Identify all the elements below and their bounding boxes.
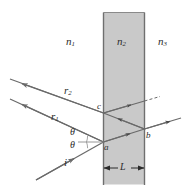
- dashed-extension-at-c: [145, 97, 161, 102]
- angle-theta-lower: θ: [70, 140, 75, 150]
- point-b-label: b: [146, 131, 151, 140]
- optics-ray-diagram: n1 n2 n3 r2 r1 i θ θ a b c L: [0, 0, 182, 185]
- reflected-ray-r2: [10, 79, 104, 113]
- slab-thickness-label: L: [120, 162, 126, 172]
- reflected-ray-2-label: r2: [64, 85, 72, 97]
- angle-arc-lower: [87, 142, 88, 148]
- transmitted-ray-at-b: [145, 118, 182, 129]
- angle-theta-upper: θ: [70, 127, 75, 137]
- point-c-label: c: [97, 102, 101, 111]
- diagram-canvas: [0, 0, 182, 185]
- medium-2-index: n2: [117, 36, 126, 48]
- reflected-ray-1-label: r1: [51, 111, 59, 123]
- incident-ray-label: i: [64, 157, 67, 168]
- angle-construction-at-a: [78, 136, 104, 148]
- medium-1-index: n1: [66, 36, 75, 48]
- point-a-label: a: [104, 143, 109, 152]
- medium-3-index: n3: [158, 36, 167, 48]
- angle-arc-upper: [87, 136, 88, 142]
